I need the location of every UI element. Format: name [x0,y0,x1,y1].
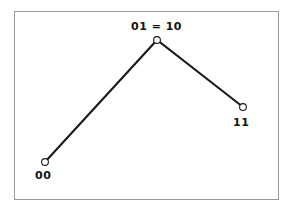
figure-root: 01 = 10 00 11 [0,0,295,213]
data-line [45,40,243,162]
data-point-label-01-10: 01 = 10 [131,21,182,32]
data-point-marker-00 [42,159,49,166]
data-point-marker-11 [240,104,247,111]
data-point-label-11: 11 [233,117,249,128]
data-point-label-00: 00 [35,170,51,181]
data-point-marker-01-10 [154,37,161,44]
